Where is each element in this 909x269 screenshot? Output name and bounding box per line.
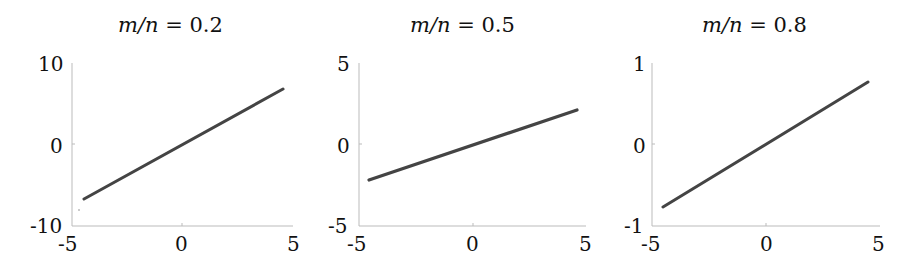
data-line	[84, 89, 283, 199]
subplot-3: m/n = 0.8 1 0 -1 -5 0 5	[606, 0, 909, 269]
x-tick-mid: 0	[466, 234, 479, 254]
x-tick-right: 5	[872, 234, 885, 254]
x-tick-left: -5	[58, 234, 77, 254]
y-tick-top: 10	[38, 54, 63, 74]
x-tick-mid: 0	[760, 234, 773, 254]
y-tick-top: 1	[633, 54, 646, 74]
x-tick-left: -5	[347, 234, 366, 254]
y-tick-mid: 0	[50, 136, 63, 156]
plot-area	[606, 0, 909, 269]
x-tick-right: 5	[287, 234, 300, 254]
y-tick-top: 5	[337, 54, 350, 74]
y-tick-bottom: -5	[328, 216, 347, 236]
x-tick-right: 5	[579, 234, 592, 254]
subplot-1: m/n = 0.2 10 0 -10 -5 0 5	[0, 0, 303, 269]
data-line	[369, 110, 577, 180]
x-tick-left: -5	[641, 234, 660, 254]
data-line	[663, 82, 868, 207]
subplot-2: m/n = 0.5 5 0 -5 -5 0 5	[303, 0, 606, 269]
y-tick-mid: 0	[337, 136, 350, 156]
y-tick-mid: 0	[633, 136, 646, 156]
x-tick-mid: 0	[175, 234, 188, 254]
